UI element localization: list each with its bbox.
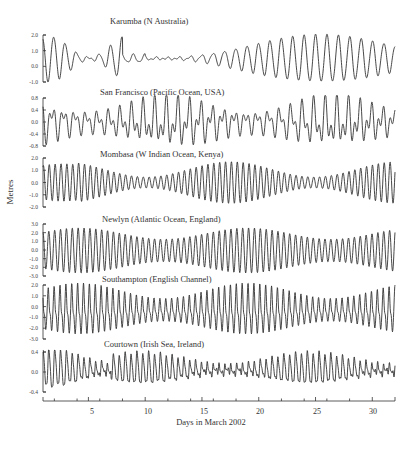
y-tick-label: 2.0	[31, 230, 38, 236]
y-tick-label: -1.0	[29, 314, 38, 320]
y-tick-label: 1.0	[31, 238, 38, 244]
y-tick-label: -1.0	[29, 256, 38, 262]
y-tick-label: 0.0	[31, 247, 38, 253]
panel-title-courtown: Courtown (Irish Sea, Ireland)	[104, 339, 204, 349]
x-tick-label-30: 30	[369, 407, 377, 416]
y-tick-label: -0.8	[29, 143, 38, 149]
panel-0: 2.01.00.0-1.0	[29, 32, 395, 85]
y-tick-label: 3.0	[31, 221, 38, 227]
y-tick-label: 2.0	[31, 282, 38, 288]
x-tick-label-25: 25	[313, 407, 321, 416]
panel-title-san-francisco: San Francisco (Pacific Ocean, USA)	[100, 87, 225, 97]
x-axis-label: Days in March 2002	[176, 417, 246, 427]
y-tick-label: 2.0	[31, 32, 38, 38]
y-tick-label: -0.4	[29, 131, 38, 137]
x-axis: 5 10 15 20 25 30 Days in March 2002	[43, 397, 395, 427]
y-tick-label: 1.0	[31, 293, 38, 299]
y-tick-label: 1.0	[31, 48, 38, 54]
panel-1: 0.80.40.0-0.4-0.8	[29, 95, 395, 149]
panel-2: 2.01.00.0-1.0-2.0	[29, 155, 395, 210]
x-tick-label-5: 5	[90, 407, 94, 416]
panel-3: 3.02.01.00.0-1.0-2.0-3.0	[29, 221, 395, 279]
y-tick-label: -3.0	[29, 336, 38, 342]
y-tick-label: 2.0	[31, 155, 38, 161]
y-tick-label: -1.0	[29, 79, 38, 85]
x-tick-label-10: 10	[144, 407, 152, 416]
tide-curve	[43, 350, 395, 387]
tide-curve	[43, 96, 395, 145]
x-axis-ticks	[54, 397, 372, 401]
x-tick-label-15: 15	[200, 407, 208, 416]
y-tick-label: -2.0	[29, 264, 38, 270]
x-axis-line	[43, 397, 395, 401]
tide-curve	[43, 283, 395, 334]
y-tick-label: 0.0	[31, 63, 38, 69]
y-tick-label: -2.0	[29, 204, 38, 210]
y-tick-label: 0.4	[31, 107, 38, 113]
tide-curve	[43, 162, 395, 203]
panel-4: 2.01.00.0-1.0-2.0-3.0	[29, 282, 395, 342]
panel-5: 0.40.0-0.4	[29, 349, 395, 395]
tidal-chart: Karumba (N Australia) San Francisco (Pac…	[0, 0, 416, 449]
y-tick-label: 0.8	[31, 95, 38, 101]
tide-curve	[43, 228, 395, 273]
y-tick-label: 0.0	[31, 119, 38, 125]
panel-title-mombasa: Mombasa (W Indian Ocean, Kenya)	[100, 149, 223, 159]
panel-title-southampton: Southampton (English Channel)	[102, 274, 212, 284]
y-tick-label: -1.0	[29, 192, 38, 198]
x-tick-label-20: 20	[256, 407, 264, 416]
y-tick-label: -2.0	[29, 325, 38, 331]
y-tick-label: 0.0	[31, 304, 38, 310]
panel-title-karumba: Karumba (N Australia)	[110, 16, 189, 26]
y-tick-label: 0.4	[31, 349, 38, 355]
tide-curve	[43, 34, 395, 82]
panel-title-newlyn: Newlyn (Atlantic Ocean, England)	[102, 214, 221, 224]
y-axis-label: Metres	[5, 179, 15, 204]
y-tick-label: -3.0	[29, 273, 38, 279]
y-tick-label: 1.0	[31, 167, 38, 173]
y-tick-label: 0.0	[31, 369, 38, 375]
y-tick-label: 0.0	[31, 180, 38, 186]
y-tick-label: -0.4	[29, 389, 38, 395]
